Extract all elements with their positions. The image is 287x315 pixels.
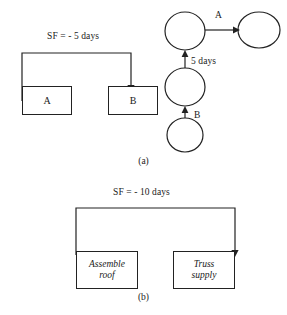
network-arrow-a-label: A (215, 10, 222, 20)
sf-link-path-b (76, 208, 235, 255)
activity-box-b-label: B (130, 95, 137, 106)
activity-box-a-label: A (43, 95, 50, 106)
network-arrow-b-head (182, 106, 189, 113)
activity-box-assemble-roof-label-line2: roof (99, 270, 114, 281)
network-node-top-left (165, 12, 205, 50)
network-node-top-right (238, 12, 280, 48)
panel-b: Assemble roof Truss supply SF = - 10 day… (0, 175, 287, 315)
activity-box-truss-supply-label-line2: supply (192, 270, 217, 281)
network-node-bottom (167, 118, 203, 152)
sf-link-label-b: SF = - 10 days (113, 187, 170, 197)
network-node-middle (165, 68, 205, 106)
activity-box-a[interactable]: A (22, 86, 72, 115)
activity-box-truss-supply-label-line1: Truss (194, 259, 215, 270)
activity-box-assemble-roof[interactable]: Assemble roof (76, 251, 138, 289)
sf-link-label-a: SF = - 5 days (47, 31, 99, 41)
network-arrow-duration-head (182, 50, 189, 57)
activity-box-truss-supply[interactable]: Truss supply (173, 251, 235, 289)
network-arrow-duration-label: 5 days (191, 56, 216, 66)
figure-start-to-finish-relationship: A B SF = - 5 days A 5 day (0, 0, 287, 315)
activity-box-assemble-roof-label-line1: Assemble (89, 259, 125, 270)
activity-box-b[interactable]: B (108, 86, 158, 115)
network-arrow-b-label: B (194, 110, 200, 120)
panel-a: A B SF = - 5 days A 5 day (0, 0, 287, 175)
